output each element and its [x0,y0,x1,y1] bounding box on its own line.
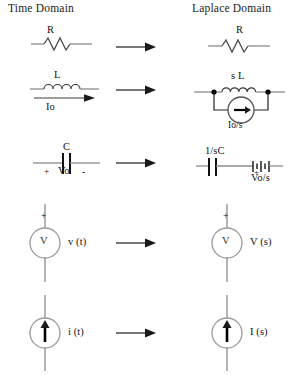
laplace-transform-diagram: Time Domain Laplace Domain R R L Io s L [0,0,291,378]
current-source-icon-laplace [0,0,291,378]
current-source-label-laplace: I (s) [250,326,268,337]
